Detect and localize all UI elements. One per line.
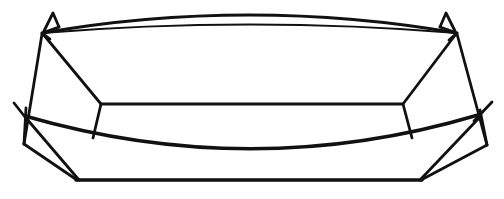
line-drawing-illustration: Line drawing of an open boat-shaped vess… [0,0,504,199]
figure-canvas: Line drawing of an open boat-shaped vess… [0,0,504,199]
left-lower-vertical: Left lower vertical edge [24,108,26,144]
